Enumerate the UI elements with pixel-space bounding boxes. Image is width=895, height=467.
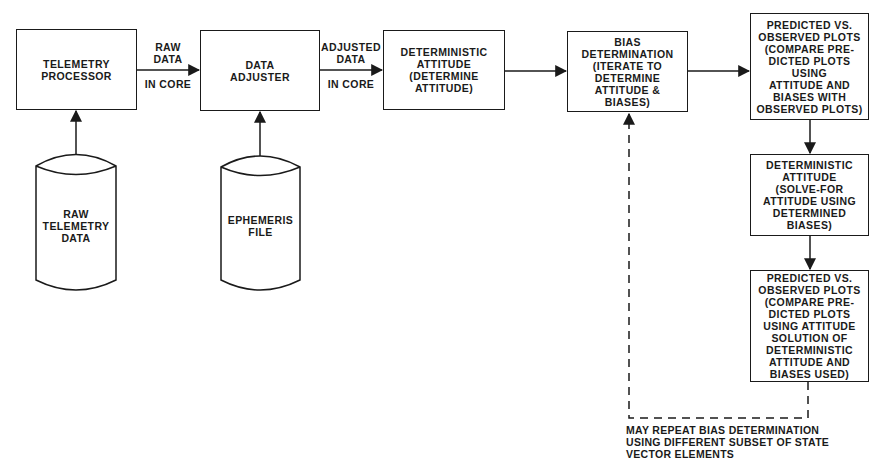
edge-label-in-core-1: IN CORE bbox=[140, 78, 196, 90]
edge-label-text: DATA bbox=[319, 53, 383, 65]
edge-label-text: ADJUSTED bbox=[319, 41, 383, 53]
node-deterministic-attitude-1: DETERMINISTIC ATTITUDE (DETERMINE ATTITU… bbox=[383, 30, 505, 110]
node-text: TELEMETRY bbox=[43, 58, 110, 70]
node-text: ATTITUDE & bbox=[595, 84, 661, 96]
node-text: BIAS bbox=[614, 36, 641, 48]
node-telemetry-processor: TELEMETRY PROCESSOR bbox=[16, 29, 137, 110]
node-text: PREDICTED VS. bbox=[767, 19, 853, 31]
node-text: DETERMINISTIC bbox=[766, 344, 853, 356]
node-text: (COMPARE PRE- bbox=[765, 296, 855, 308]
node-text: BIASES) bbox=[605, 96, 650, 108]
node-text: DICTED PLOTS bbox=[769, 55, 851, 67]
node-predicted-vs-observed-1: PREDICTED VS. OBSERVED PLOTS (COMPARE PR… bbox=[750, 13, 869, 120]
node-text: DATA bbox=[36, 232, 116, 244]
node-text: USING bbox=[792, 67, 827, 79]
node-text: (SOLVE-FOR bbox=[776, 183, 844, 195]
node-text: BIASES USED) bbox=[770, 368, 849, 380]
node-text: (ITERATE TO bbox=[593, 60, 662, 72]
node-text: PREDICTED VS. bbox=[767, 272, 853, 284]
node-text: DETERMINISTIC bbox=[401, 46, 488, 58]
node-text: SOLUTION OF bbox=[771, 332, 847, 344]
node-text: OBSERVED PLOTS bbox=[758, 284, 860, 296]
edge-label-in-core-2: IN CORE bbox=[322, 78, 380, 90]
edge-label-adjusted-data: ADJUSTED DATA bbox=[319, 41, 383, 65]
edge-label-text: RAW bbox=[140, 41, 196, 53]
node-text: DETERMINED bbox=[773, 207, 846, 219]
node-text: DETERMINISTIC bbox=[766, 159, 853, 171]
node-deterministic-attitude-2: DETERMINISTIC ATTITUDE (SOLVE-FOR ATTITU… bbox=[750, 154, 869, 236]
node-text: DETERMINE bbox=[595, 72, 660, 84]
node-predicted-vs-observed-2: PREDICTED VS. OBSERVED PLOTS (COMPARE PR… bbox=[750, 270, 869, 382]
note-line: VECTOR ELEMENTS bbox=[626, 448, 829, 460]
node-text: TELEMETRY bbox=[36, 220, 116, 232]
node-text: ATTITUDE AND bbox=[769, 79, 850, 91]
edge-label-text: IN CORE bbox=[328, 78, 375, 90]
node-text: BIASES WITH bbox=[773, 91, 846, 103]
note-line: USING DIFFERENT SUBSET OF STATE bbox=[626, 436, 829, 448]
node-text: OBSERVED PLOTS) bbox=[756, 103, 862, 115]
node-text: ATTITUDE USING bbox=[763, 195, 856, 207]
node-text: OBSERVED PLOTS bbox=[758, 31, 860, 43]
node-text: EPHEMERIS bbox=[221, 214, 300, 226]
node-bias-determination: BIAS DETERMINATION (ITERATE TO DETERMINE… bbox=[567, 31, 688, 112]
node-text: DICTED PLOTS bbox=[769, 308, 851, 320]
node-text: (COMPARE PRE- bbox=[765, 43, 855, 55]
node-text: ATTITUDE bbox=[417, 58, 471, 70]
node-data-adjuster: DATA ADJUSTER bbox=[200, 30, 320, 111]
node-ephemeris-file: EPHEMERIS FILE bbox=[221, 214, 300, 238]
node-text: DATA bbox=[245, 59, 274, 71]
edge-label-text: DATA bbox=[140, 53, 196, 65]
node-text: BIASES) bbox=[787, 219, 832, 231]
note-line: MAY REPEAT BIAS DETERMINATION bbox=[626, 424, 829, 436]
edge-label-raw-data: RAW DATA bbox=[140, 41, 196, 65]
node-text: PROCESSOR bbox=[41, 70, 112, 82]
node-text: ATTITUDE AND bbox=[769, 356, 850, 368]
node-text: DETERMINATION bbox=[582, 48, 674, 60]
node-text: (DETERMINE bbox=[409, 70, 478, 82]
edge-label-text: IN CORE bbox=[145, 78, 192, 90]
node-text: USING ATTITUDE bbox=[763, 320, 856, 332]
node-text: ATTITUDE) bbox=[415, 82, 473, 94]
feedback-note: MAY REPEAT BIAS DETERMINATION USING DIFF… bbox=[626, 424, 829, 460]
node-text: ATTITUDE bbox=[782, 171, 836, 183]
node-raw-telemetry-data: RAW TELEMETRY DATA bbox=[36, 208, 116, 244]
node-text: ADJUSTER bbox=[230, 71, 290, 83]
node-text: RAW bbox=[36, 208, 116, 220]
node-text: FILE bbox=[221, 226, 300, 238]
